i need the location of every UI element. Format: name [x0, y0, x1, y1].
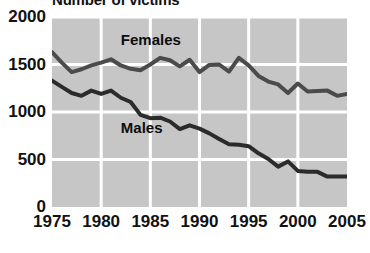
y-axis-tick-label: 1000	[0, 102, 52, 122]
y-axis-tick-label: 500	[0, 150, 52, 170]
chart-root: Number of victims 0500100015002000 19751…	[0, 0, 370, 253]
series-label-females: Females	[121, 31, 181, 48]
chart-title: Number of victims	[52, 0, 179, 8]
plot-svg	[52, 17, 347, 207]
plot-area	[52, 17, 347, 207]
x-axis-tick-label: 2005	[317, 212, 370, 232]
y-axis-tick-label: 1500	[0, 55, 52, 75]
y-axis-tick-label: 2000	[0, 7, 52, 27]
gridlines	[52, 17, 347, 207]
series-label-males: Males	[121, 119, 163, 136]
